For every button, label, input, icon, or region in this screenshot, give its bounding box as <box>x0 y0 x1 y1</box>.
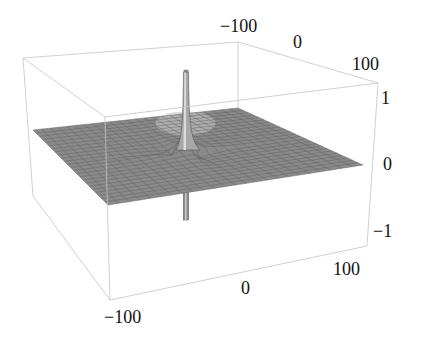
tick-label: 0 <box>241 278 250 298</box>
tick-label: 100 <box>333 259 360 279</box>
surface-mesh <box>33 108 363 205</box>
tick-label: 0 <box>383 154 392 174</box>
tick-label: 100 <box>352 54 379 74</box>
tick-label: −1 <box>373 221 392 241</box>
spike-down <box>184 190 189 220</box>
tick-label: 0 <box>293 32 302 52</box>
tick-label: 1 <box>381 88 390 108</box>
tick-label: −100 <box>104 307 141 327</box>
tick-label: −100 <box>220 16 257 36</box>
surface-plot: −100 0 100 1 0 −1 −100 0 100 <box>0 0 423 342</box>
x-axis-ticks-back: −100 0 100 <box>220 16 379 74</box>
